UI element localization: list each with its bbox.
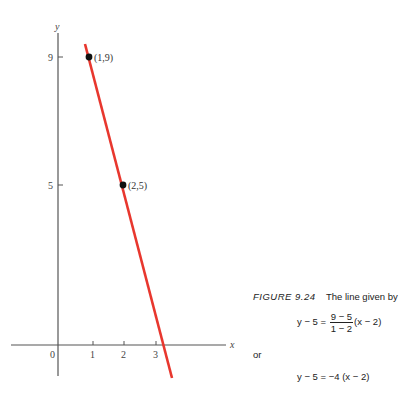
x-tick-label-3: 3 bbox=[153, 349, 158, 360]
y-tick-label-5: 5 bbox=[48, 180, 53, 191]
origin-label: 0 bbox=[50, 349, 55, 360]
point-2-5-label: (2,5) bbox=[128, 180, 147, 192]
point-2-5 bbox=[120, 182, 127, 189]
plotted-line bbox=[85, 44, 172, 378]
equation-2: y − 5 = −4 (x − 2) bbox=[297, 371, 369, 382]
y-tick-label-9: 9 bbox=[48, 52, 53, 63]
x-axis-label: x bbox=[229, 339, 235, 350]
figure-number: FIGURE 9.24 bbox=[253, 291, 316, 302]
equation-1-lhs: y − 5 = bbox=[297, 316, 326, 327]
x-tick-label-2: 2 bbox=[121, 349, 126, 360]
fraction-denominator: 1 − 2 bbox=[330, 323, 353, 334]
chart-canvas: y x 0 1 2 3 9 5 (1,9) (2,5) bbox=[0, 0, 399, 395]
equation-1: y − 5 = 9 − 5 1 − 2 (x − 2) bbox=[297, 311, 381, 334]
fraction-numerator: 9 − 5 bbox=[330, 311, 353, 323]
figure-caption: FIGURE 9.24 The line given by bbox=[253, 291, 398, 302]
point-1-9-label: (1,9) bbox=[94, 52, 113, 64]
equation-1-fraction: 9 − 5 1 − 2 bbox=[330, 311, 353, 334]
x-tick-label-1: 1 bbox=[90, 349, 95, 360]
y-axis-label: y bbox=[54, 21, 60, 32]
equation-1-rhs: (x − 2) bbox=[354, 316, 381, 327]
caption-text: The line given by bbox=[326, 291, 398, 302]
connector-text: or bbox=[253, 349, 261, 360]
point-1-9 bbox=[86, 54, 93, 61]
